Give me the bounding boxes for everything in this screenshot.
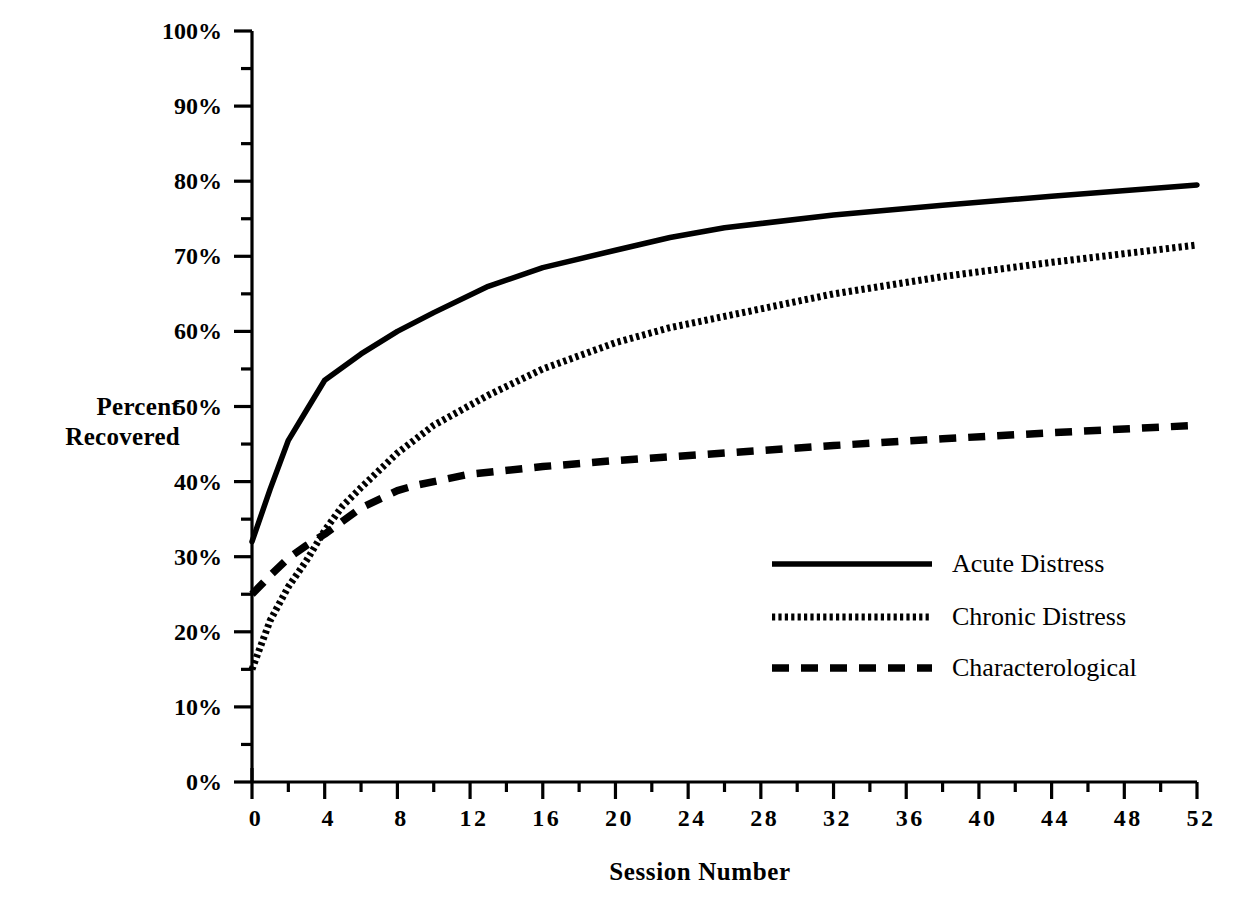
y-tick-label: 70% [110,243,222,270]
legend-swatches [772,564,932,668]
x-tick-label: 32 [823,805,852,832]
x-tick-label: 24 [678,805,707,832]
y-tick-label: 0% [110,769,222,796]
y-tick-label: 40% [110,468,222,495]
y-axis-title-line-2: Recovered [8,422,180,452]
x-tick-label: 16 [532,805,561,832]
x-tick-label: 4 [321,805,336,832]
x-tick-label: 28 [750,805,779,832]
y-axis-ticks [234,31,252,782]
x-tick-label: 36 [896,805,925,832]
legend-label: Characterological [952,653,1137,683]
x-tick-label: 40 [968,805,997,832]
y-tick-label: 80% [110,168,222,195]
y-tick-label: 10% [110,693,222,720]
x-tick-label: 12 [460,805,489,832]
y-tick-label: 20% [110,618,222,645]
x-tick-label: 0 [249,805,264,832]
y-tick-label: 30% [110,543,222,570]
x-tick-label: 8 [394,805,409,832]
legend-label: Chronic Distress [952,602,1126,632]
legend-label: Acute Distress [952,549,1104,579]
chart-figure: Percent Recovered Session Number 0%10%20… [0,0,1237,912]
y-tick-label: 100% [110,18,222,45]
x-tick-label: 52 [1187,805,1216,832]
x-tick-label: 20 [605,805,634,832]
series-line-solid [252,185,1197,542]
chart-series-lines [252,185,1197,669]
x-axis-title: Session Number [420,858,980,886]
y-tick-label: 50% [110,393,222,420]
x-tick-label: 48 [1114,805,1143,832]
y-tick-label: 90% [110,93,222,120]
y-tick-label: 60% [110,318,222,345]
x-tick-label: 44 [1041,805,1070,832]
